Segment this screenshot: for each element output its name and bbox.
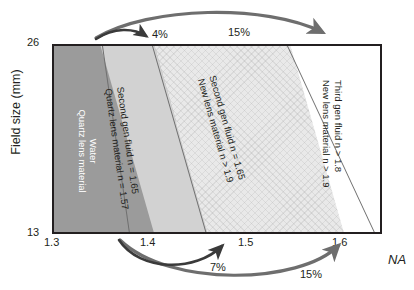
annotation-bottom-7: 7%	[210, 261, 226, 273]
figure-canvas: Water Quartz lens material Second gen fl…	[0, 0, 414, 290]
annotation-top-15: 15%	[228, 26, 250, 38]
annotation-top-4: 4%	[152, 28, 168, 40]
annotation-bottom-15: 15%	[300, 268, 322, 280]
annotation-arrows	[0, 0, 414, 290]
arrow-top-15	[96, 12, 322, 38]
arrow-top-4	[96, 30, 146, 39]
